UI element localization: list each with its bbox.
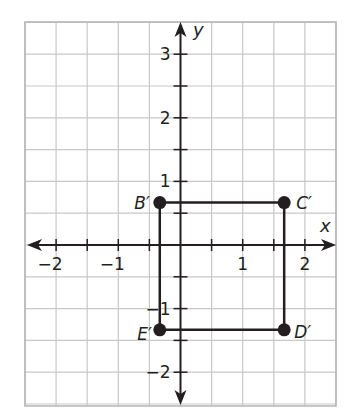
- y-axis-label: y: [192, 19, 204, 40]
- y-tick-label: 1: [160, 171, 171, 191]
- point-label: E′: [137, 324, 152, 344]
- point-marker: [153, 196, 166, 209]
- x-tick-label: 2: [299, 254, 310, 274]
- y-tick-label: −2: [145, 362, 170, 382]
- point-marker: [278, 196, 291, 209]
- point-label: D′: [294, 322, 311, 342]
- x-tick-label: 1: [237, 254, 248, 274]
- point-b-prime: B′: [134, 193, 166, 213]
- x-tick-label: −2: [38, 254, 63, 274]
- coordinate-plane: −2−112321−1−2 x y B′C′D′E′: [0, 0, 349, 420]
- point-c-prime: C′: [278, 193, 312, 213]
- rectangle-shape: [160, 203, 284, 330]
- coordinate-plane-svg: −2−112321−1−2 x y B′C′D′E′: [0, 0, 349, 420]
- point-marker: [153, 323, 166, 336]
- x-tick-label: −1: [100, 254, 125, 274]
- point-marker: [278, 323, 291, 336]
- axes: −2−112321−1−2 x y: [27, 19, 336, 405]
- x-axis-label: x: [319, 215, 331, 236]
- point-label: B′: [134, 193, 150, 213]
- y-tick-label: 2: [160, 108, 171, 128]
- y-tick-label: −1: [145, 299, 170, 319]
- point-d-prime: D′: [278, 322, 312, 342]
- y-tick-label: 3: [160, 44, 171, 64]
- rectangle-outline: [160, 203, 284, 330]
- point-label: C′: [296, 193, 312, 213]
